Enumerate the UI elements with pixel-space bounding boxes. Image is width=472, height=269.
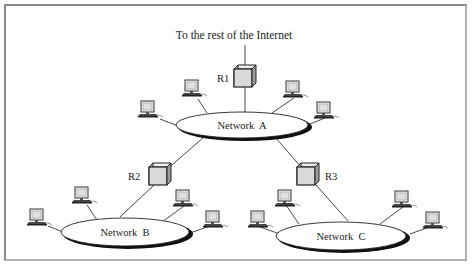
computer-icon [27, 209, 52, 226]
router-r1: R1 [217, 65, 256, 87]
computer-icon [275, 190, 300, 207]
network-diagram: To the rest of the Internet Network A [0, 0, 472, 269]
network-c: Network C [276, 222, 410, 253]
computer-icon [72, 187, 97, 204]
internet-label: To the rest of the Internet [176, 29, 293, 41]
router-icon [149, 163, 171, 185]
router-r3-label: R3 [325, 171, 337, 182]
computer-icon [314, 102, 339, 119]
network-b-label: Network B [101, 227, 150, 238]
router-r3: R3 [297, 163, 337, 185]
router-r2-label: R2 [128, 171, 140, 182]
computer-icon [138, 101, 163, 118]
computer-icon [182, 80, 207, 97]
network-b: Network B [61, 218, 193, 249]
router-icon [234, 65, 256, 87]
network-c-label: Network C [317, 231, 366, 242]
network-a-label: Network A [218, 120, 267, 131]
computer-icon [392, 191, 417, 208]
computer-icon [283, 81, 308, 98]
router-r2: R2 [128, 163, 171, 185]
router-icon [297, 163, 319, 185]
network-a: Network A [176, 112, 312, 141]
computer-icon [423, 212, 448, 229]
computer-icon [248, 211, 273, 228]
computer-icon [173, 190, 198, 207]
computer-icon [203, 211, 228, 228]
router-r1-label: R1 [217, 73, 229, 84]
